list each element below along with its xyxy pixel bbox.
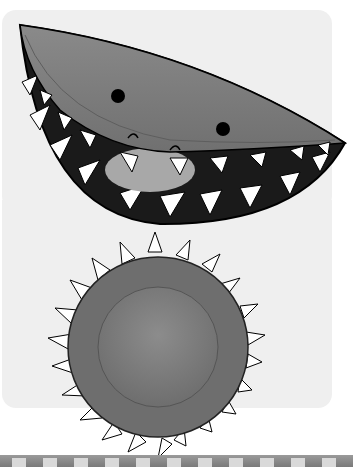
toothed-plate: [48, 232, 265, 458]
shark-jaw: [20, 25, 345, 224]
bottom-checker-strip: [0, 455, 353, 467]
shark-illustration: [0, 0, 353, 467]
